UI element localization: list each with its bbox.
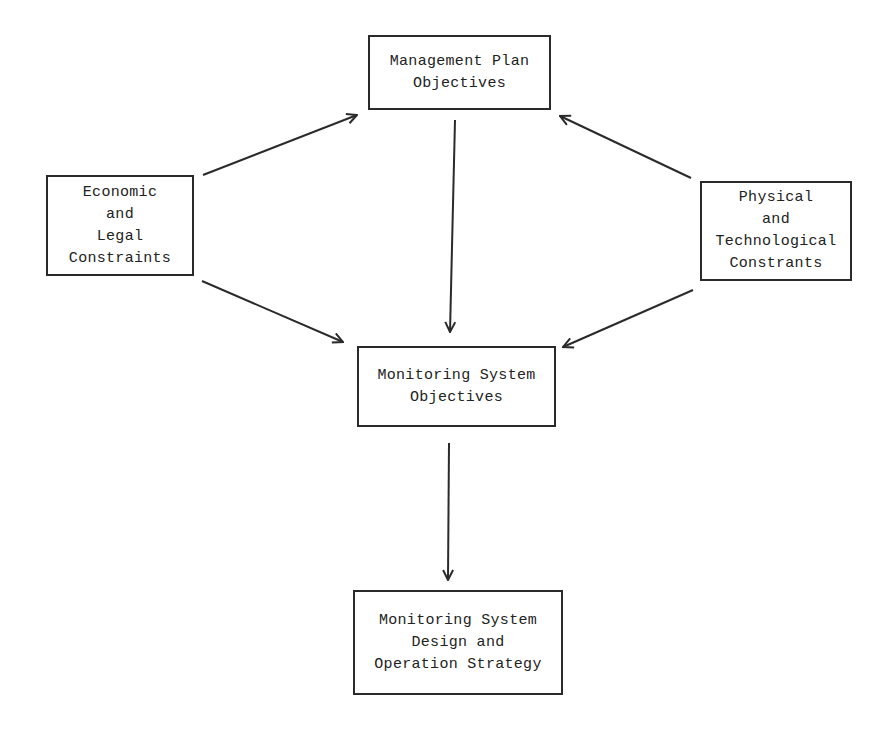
node-label-line: Economic [83, 182, 157, 204]
node-label-line: Constrants [729, 253, 822, 275]
arrow-monitoring_objectives-to-design_strategy [448, 443, 449, 580]
arrow-physical-to-management [560, 116, 691, 178]
node-design-operation-strategy: Monitoring System Design and Operation S… [353, 590, 563, 695]
arrow-management-to-monitoring_objectives [450, 120, 455, 332]
node-label-line: Constraints [69, 248, 171, 270]
node-label-line: Monitoring System [377, 365, 535, 387]
node-label-line: Physical [739, 187, 813, 209]
arrow-physical-to-monitoring_objectives [563, 290, 693, 347]
node-label-line: Objectives [410, 387, 503, 409]
node-label-line: Technological [716, 231, 837, 253]
node-monitoring-system-objectives: Monitoring System Objectives [357, 346, 556, 427]
arrow-economic-to-management [203, 115, 357, 175]
node-physical-technological-constraints: Physical and Technological Constrants [700, 181, 852, 281]
node-label-line: Objectives [413, 73, 506, 95]
arrow-economic-to-monitoring_objectives [202, 281, 343, 342]
node-economic-legal-constraints: Economic and Legal Constraints [46, 175, 194, 276]
node-label-line: and [106, 204, 134, 226]
node-label-line: Design and [411, 632, 504, 654]
node-label-line: Operation Strategy [374, 654, 541, 676]
node-label-line: and [762, 209, 790, 231]
node-label-line: Management Plan [390, 51, 530, 73]
node-label-line: Legal [97, 226, 144, 248]
node-label-line: Monitoring System [379, 610, 537, 632]
node-management-plan-objectives: Management Plan Objectives [368, 35, 551, 110]
